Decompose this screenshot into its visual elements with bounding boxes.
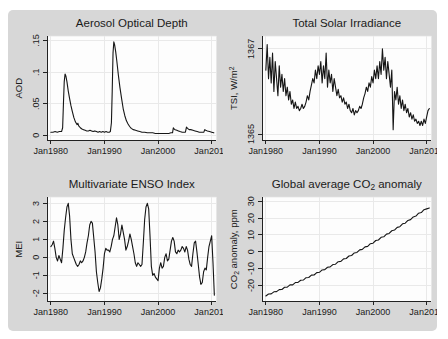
x-tick-label: Jan1980 bbox=[34, 146, 69, 156]
x-tick-label: Jan2000 bbox=[141, 146, 176, 156]
y-tick-label: .05 bbox=[31, 97, 41, 110]
y-tick-label: 10 bbox=[246, 229, 256, 239]
y-tick-label: 3 bbox=[31, 200, 41, 205]
chart-multivariate-enso-index: Jan1980Jan1990Jan2000Jan2010-2-10123MEIM… bbox=[8, 171, 223, 332]
y-tick-label: -2 bbox=[31, 289, 41, 297]
four-panel-graph-area: Jan1980Jan1990Jan2000Jan20100.05.1.15AOD… bbox=[8, 10, 437, 331]
y-tick-label: 0 bbox=[31, 254, 41, 259]
x-tick-label: Jan1990 bbox=[87, 307, 122, 317]
y-tick-label: -20 bbox=[246, 278, 256, 291]
x-tick-label: Jan1980 bbox=[34, 307, 69, 317]
chart-canvas-global-co2-anomaly: Jan1980Jan1990Jan2000Jan2010-20-10010203… bbox=[223, 171, 438, 332]
chart-global-co2-anomaly: Jan1980Jan1990Jan2000Jan2010-20-10010203… bbox=[223, 171, 438, 332]
chart-title: Aerosol Optical Depth bbox=[76, 17, 188, 29]
y-tick-label: 0 bbox=[31, 133, 41, 138]
plot-area bbox=[47, 36, 216, 140]
x-tick-label: Jan2010 bbox=[194, 307, 222, 317]
y-axis-title: MEI bbox=[13, 240, 24, 257]
x-tick-label: Jan1990 bbox=[87, 146, 122, 156]
chart-canvas-multivariate-enso-index: Jan1980Jan1990Jan2000Jan2010-2-10123MEIM… bbox=[8, 171, 223, 332]
x-tick-label: Jan2010 bbox=[194, 146, 222, 156]
chart-title: Multivariate ENSO Index bbox=[69, 178, 195, 190]
chart-canvas-total-solar-irradiance: Jan1980Jan1990Jan2000Jan201013651367TSI,… bbox=[223, 10, 438, 171]
x-tick-label: Jan2010 bbox=[409, 146, 437, 156]
y-axis-title: TSI, W/m2 bbox=[228, 66, 239, 110]
y-tick-label: 1365 bbox=[246, 124, 256, 144]
chart-total-solar-irradiance: Jan1980Jan1990Jan2000Jan201013651367TSI,… bbox=[223, 10, 438, 171]
y-tick-label: .15 bbox=[31, 34, 41, 47]
y-tick-label: 30 bbox=[246, 196, 256, 206]
x-tick-label: Jan2000 bbox=[355, 146, 390, 156]
x-tick-label: Jan2000 bbox=[355, 307, 390, 317]
y-tick-label: 0 bbox=[246, 249, 256, 254]
plot-area bbox=[47, 197, 216, 301]
y-tick-label: .1 bbox=[31, 68, 41, 76]
x-tick-label: Jan1980 bbox=[248, 146, 283, 156]
y-tick-label: -1 bbox=[31, 271, 41, 279]
y-tick-label: 2 bbox=[31, 218, 41, 223]
chart-canvas-aerosol-optical-depth: Jan1980Jan1990Jan2000Jan20100.05.1.15AOD… bbox=[8, 10, 223, 171]
x-tick-label: Jan1980 bbox=[248, 307, 283, 317]
x-tick-label: Jan1990 bbox=[302, 146, 337, 156]
y-tick-label: 1 bbox=[31, 236, 41, 241]
y-tick-label: -10 bbox=[246, 262, 256, 275]
y-tick-label: 20 bbox=[246, 213, 256, 223]
y-axis-title: AOD bbox=[13, 78, 24, 99]
chart-aerosol-optical-depth: Jan1980Jan1990Jan2000Jan20100.05.1.15AOD… bbox=[8, 10, 223, 171]
chart-title: Global average CO2 anomaly bbox=[271, 178, 421, 192]
x-tick-label: Jan2000 bbox=[141, 307, 176, 317]
y-tick-label: 1367 bbox=[246, 39, 256, 59]
x-tick-label: Jan2010 bbox=[409, 307, 437, 317]
x-tick-label: Jan1990 bbox=[302, 307, 337, 317]
y-axis-title: CO2 anomaly, ppm bbox=[228, 209, 240, 289]
chart-title: Total Solar Irradiance bbox=[292, 17, 401, 29]
